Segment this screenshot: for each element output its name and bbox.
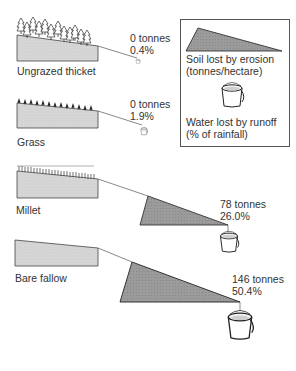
- row-millet: [17, 166, 239, 252]
- soil-loss-triangle: [120, 262, 240, 302]
- runoff-line: [98, 248, 132, 262]
- bucket-icon: [136, 59, 140, 64]
- soil-value-bare-fallow: 146 tonnes: [232, 274, 284, 286]
- slope-block: [17, 103, 98, 128]
- label-grass: Grass: [17, 136, 45, 148]
- slope-block: [15, 240, 98, 266]
- label-bare-fallow: Bare fallow: [15, 272, 67, 284]
- row-bare-fallow: [15, 240, 253, 339]
- bucket-icon: [222, 83, 244, 108]
- bucket-icon: [228, 311, 253, 340]
- legend-water-label-2: (% of rainfall): [186, 128, 248, 140]
- label-millet: Millet: [16, 204, 41, 216]
- water-value-grass: 1.9%: [130, 111, 154, 123]
- legend: Soil lost by erosion (tonnes/hectare) Wa…: [180, 19, 290, 147]
- water-value-millet: 26.0%: [220, 211, 250, 223]
- slope-block: [17, 171, 98, 198]
- row-ungrazed-thicket: [17, 17, 140, 64]
- soil-loss-triangle: [140, 196, 228, 225]
- bucket-icon: [141, 127, 148, 135]
- soil-value-millet: 78 tonnes: [220, 199, 266, 211]
- legend-soil-label-1: Soil lost by erosion: [186, 53, 274, 65]
- grey-triangle-icon: [186, 28, 282, 51]
- soil-value-thicket: 0 tonnes: [130, 33, 170, 45]
- bucket-icon: [220, 231, 238, 252]
- legend-soil-label-2: (tonnes/hectare): [186, 65, 262, 77]
- legend-water-label-1: Water lost by runoff: [186, 116, 276, 128]
- row-grass: [17, 100, 148, 135]
- water-value-bare-fallow: 50.4%: [232, 286, 262, 298]
- water-value-thicket: 0.4%: [130, 45, 154, 57]
- soil-value-grass: 0 tonnes: [130, 99, 170, 111]
- label-ungrazed-thicket: Ungrazed thicket: [17, 65, 96, 77]
- runoff-line: [98, 179, 148, 196]
